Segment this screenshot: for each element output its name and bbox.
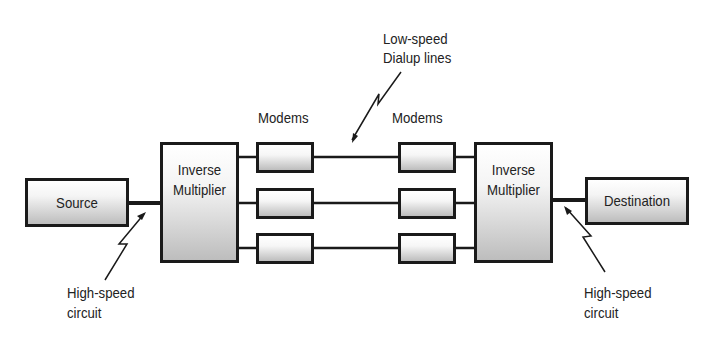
destination-node: Destination bbox=[585, 177, 689, 225]
low-speed-label-line2: Dialup lines bbox=[383, 48, 451, 67]
right-modems-label: Modems bbox=[392, 108, 443, 127]
high-speed-right-label-line2: circuit bbox=[584, 303, 618, 322]
right-mux-label-line1: Inverse bbox=[481, 161, 545, 179]
high-speed-left-label-line2: circuit bbox=[67, 303, 101, 322]
source-label: Source bbox=[34, 194, 120, 212]
destination-label: Destination bbox=[594, 192, 680, 210]
right-mux-label-line2: Multiplier bbox=[481, 181, 545, 199]
left-modem-1 bbox=[256, 142, 314, 173]
right-modem-1 bbox=[398, 142, 456, 173]
right-modem-2 bbox=[398, 188, 456, 219]
source-node: Source bbox=[25, 178, 129, 227]
high-speed-right-label-line1: High-speed bbox=[584, 283, 652, 302]
left-mux-label-line2: Multiplier bbox=[167, 181, 231, 199]
high-speed-left-label-line1: High-speed bbox=[67, 283, 135, 302]
left-modem-2 bbox=[256, 188, 314, 219]
left-modem-3 bbox=[256, 233, 314, 264]
left-modems-label: Modems bbox=[258, 108, 309, 127]
left-inverse-multiplier: Inverse Multiplier bbox=[160, 142, 239, 263]
right-modem-3 bbox=[398, 233, 456, 264]
low-speed-label-line1: Low-speed bbox=[383, 29, 448, 48]
right-inverse-multiplier: Inverse Multiplier bbox=[474, 142, 553, 263]
inverse-multiplexing-diagram: Source Inverse Multiplier Modems Low-spe… bbox=[0, 0, 710, 346]
left-mux-label-line1: Inverse bbox=[167, 161, 231, 179]
